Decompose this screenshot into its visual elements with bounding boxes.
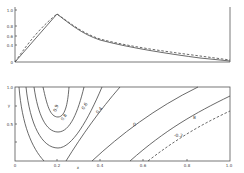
bottom-y-label: y <box>8 103 11 108</box>
contour-0.4-right <box>66 87 120 161</box>
top-dashed-curve <box>15 14 230 62</box>
contour-0.2 <box>92 87 198 161</box>
bottom-y-tick: 1.0 <box>7 85 14 90</box>
bottom-x-tick: 0.6 <box>140 163 147 168</box>
top-y-tick: 0.6 <box>7 34 14 39</box>
bottom-frame <box>15 87 230 161</box>
bottom-y-tick: 0.5 <box>7 122 14 127</box>
top-panel: 1.0 0.8 0.6 0.4 0 <box>7 7 230 65</box>
top-solid-curve <box>15 14 230 62</box>
top-y-tick: 0.4 <box>7 43 14 48</box>
contour-label: 0.4 <box>95 106 104 115</box>
figure: 1.0 0.8 0.6 0.4 0 1.0 y 0.5 0 0.2 x 0.4 … <box>0 0 244 173</box>
bottom-x-tick: 1.0 <box>226 163 233 168</box>
bottom-x-tick: 0.4 <box>97 163 104 168</box>
top-y-tick: 1.0 <box>7 8 14 13</box>
contour-neg0.2 <box>148 111 230 161</box>
contour-label: 0.8 <box>60 113 68 122</box>
bottom-panel: 1.0 y 0.5 0 0.2 x 0.4 0.6 0.8 1.0 0.9 0.… <box>7 85 233 170</box>
bottom-x-tick: 0.8 <box>184 163 191 168</box>
contour-label: 8 <box>193 115 196 120</box>
contour-label: -0.2 <box>174 133 183 138</box>
contour-label: 0 <box>133 122 136 127</box>
contour-0.8 <box>34 87 84 132</box>
bottom-x-tick: 0.2 <box>54 163 61 168</box>
contour-label: 0.6 <box>81 102 89 111</box>
contour-label: 0.9 <box>52 104 59 113</box>
top-y-tick: 0.8 <box>7 24 14 29</box>
top-y-tick: 0 <box>10 60 13 65</box>
bottom-x-tick: 0 <box>14 163 17 168</box>
bottom-x-label: x <box>77 165 80 170</box>
contour-0.4-left <box>19 87 44 161</box>
contour-0 <box>130 96 230 161</box>
